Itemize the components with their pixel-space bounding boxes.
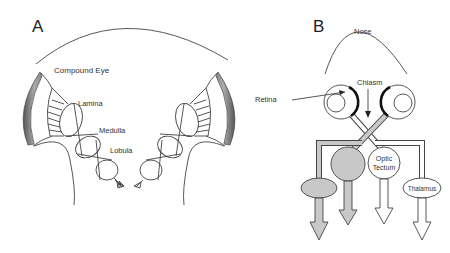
label-retina: Retina [255,95,278,104]
arrow-gray-circle-output [339,181,357,225]
panel-b-letter: B [313,17,324,36]
gray-ellipse-nucleus [301,178,337,198]
label-compound-eye: Compound Eye [54,66,110,75]
label-lobula: Lobula [110,146,133,155]
panel-b: B Nose Retina Chiasm [255,17,441,240]
optic-tectum [368,147,400,179]
right-eye [381,85,415,119]
label-medulla: Medulla [99,126,126,135]
panel-a-letter: A [32,17,44,36]
head-outline [36,28,228,64]
arrow-gray-ellipse-output [310,198,328,240]
left-optic-lobe [23,72,124,205]
nose-outline [325,32,407,74]
label-optic: Optic [376,155,393,163]
gray-circle-nucleus [331,147,365,181]
arrow-tectum-output [375,179,393,224]
panel-a: A [23,17,235,205]
right-compound-eye [216,72,235,145]
label-tectum: Tectum [373,164,396,171]
label-nose: Nose [354,27,372,36]
arrow-thalamus-output [413,198,431,240]
label-thalamus: Thalamus [408,185,437,192]
left-compound-eye [23,72,42,145]
figure: A [0,0,450,253]
label-chiasm: Chiasm [357,78,382,87]
right-lamina [172,101,202,140]
left-eye [324,85,358,119]
label-lamina: Lamina [78,99,103,108]
right-optic-lobe [134,72,235,205]
